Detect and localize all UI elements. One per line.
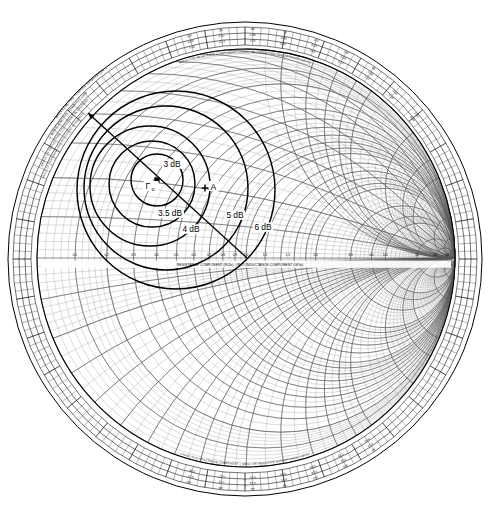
noise-figure-label: 3 dB bbox=[163, 159, 181, 169]
wavelength-tick-label: 0.13 bbox=[219, 39, 226, 44]
resistance-tick-label: 0.6 bbox=[192, 253, 197, 257]
resistance-tick-label: 1.5 bbox=[286, 253, 291, 257]
wavelength-tick-label: 0.14 bbox=[250, 39, 256, 43]
smith-chart-canvas: 0.10.20.30.40.50.60.70.80.91.01.21.52.03… bbox=[0, 0, 492, 513]
smith-chart-figure: 0.10.20.30.40.50.60.70.80.91.01.21.52.03… bbox=[0, 0, 492, 513]
noise-figure-label: 4 dB bbox=[182, 224, 200, 234]
wavelength-tick-label: 0.36 bbox=[249, 475, 255, 479]
noise-figure-label: 6 dB bbox=[254, 222, 272, 232]
resistance-tick-label: 4.0 bbox=[369, 253, 374, 257]
resistance-tick-label: 0.4 bbox=[154, 253, 159, 257]
resistance-tick-label: 0.5 bbox=[174, 253, 179, 257]
resistance-tick-label: 0.1 bbox=[73, 253, 78, 257]
resistance-tick-label: 3.0 bbox=[348, 253, 353, 257]
gamma-opt-subscript: o bbox=[151, 186, 154, 192]
wavelength-tick-label: 0.37 bbox=[219, 474, 226, 479]
wavelength-tick-label: 0.14 bbox=[250, 481, 256, 485]
wavelength-tick-label: 0.13 bbox=[218, 480, 225, 485]
angle-tick-label: 80 bbox=[251, 27, 255, 31]
resistance-tick-label: 50 bbox=[445, 253, 449, 257]
noise-figure-label: 3.5 dB bbox=[158, 208, 183, 218]
resistance-tick-label: 2.0 bbox=[313, 253, 318, 257]
resistance-tick-label: 10 bbox=[415, 253, 419, 257]
resistance-tick-label: 20 bbox=[433, 253, 437, 257]
resistance-tick-label: 0.9 bbox=[233, 253, 238, 257]
resistance-tick-label: 0.8 bbox=[221, 253, 226, 257]
angle-tick-label: -80 bbox=[250, 487, 255, 491]
gamma-opt-label: Γ bbox=[146, 181, 151, 191]
wavelength-tick-label: 0.36 bbox=[250, 33, 256, 37]
noise-figure-label: 5 dB bbox=[226, 210, 244, 220]
resistance-tick-label: 0.2 bbox=[104, 253, 109, 257]
angle-tick-label: -90 bbox=[218, 485, 223, 489]
wavelength-tick-label: 0.37 bbox=[218, 34, 225, 39]
resistance-tick-label: 0.3 bbox=[131, 253, 136, 257]
resistance-tick-label: 1.2 bbox=[263, 253, 268, 257]
resistance-axis-label: RESISTANCE COMPONENT (R/Zo), OR CONDUCTA… bbox=[41, 261, 451, 268]
resistance-tick-label: 5.0 bbox=[383, 253, 388, 257]
point-a-label: A bbox=[211, 182, 217, 192]
